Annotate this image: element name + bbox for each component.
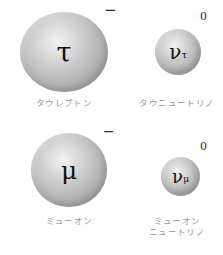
muon-neutrino-caption: ミューオン ニュートリノ — [127, 216, 223, 238]
muon-symbol-base: μ — [61, 158, 77, 183]
lepton-diagram: τ − タウレプトン ντ 0 タウニュートリノ μ − ミューオン — [0, 0, 223, 255]
tau-lepton-caption: タウレプトン — [8, 98, 120, 109]
tau-lepton-sphere-wrap: τ − — [20, 12, 108, 92]
particle-tau-neutrino: ντ 0 — [155, 29, 201, 75]
muon-neutrino-symbol-base: ν — [172, 168, 183, 186]
muon-caption: ミューオン — [17, 216, 121, 227]
tau-neutrino-charge-label: 0 — [200, 11, 207, 22]
muon-neutrino-sphere-wrap: νμ 0 — [161, 157, 200, 196]
muon-charge-label: − — [103, 124, 115, 138]
muon-sphere-wrap: μ − — [31, 133, 107, 207]
muon-neutrino-charge-label: 0 — [200, 141, 207, 152]
tau-neutrino-symbol-subscript: τ — [181, 50, 187, 60]
tau-neutrino-sphere-wrap: ντ 0 — [155, 29, 201, 75]
particle-tau-lepton: τ − — [20, 12, 108, 92]
tau-lepton-charge-label: − — [104, 3, 117, 18]
muon-neutrino-symbol-subscript: μ — [183, 175, 189, 184]
tau-lepton-symbol-base: τ — [57, 39, 72, 66]
tau-lepton-symbol: τ — [20, 12, 108, 92]
muon-neutrino-symbol: νμ — [161, 157, 200, 196]
muon-symbol: μ — [31, 133, 107, 207]
particle-muon: μ − — [31, 133, 107, 207]
tau-neutrino-caption: タウニュートリノ — [124, 98, 223, 109]
tau-neutrino-symbol: ντ — [155, 29, 201, 75]
particle-muon-neutrino: νμ 0 — [161, 157, 200, 196]
tau-neutrino-symbol-base: ν — [169, 42, 181, 62]
